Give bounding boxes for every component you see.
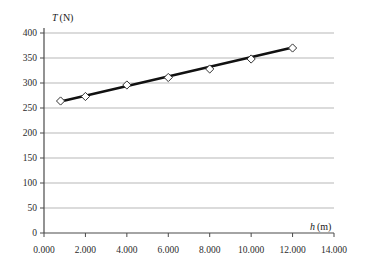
y-tick-label: 350 xyxy=(23,53,38,63)
data-point-marker xyxy=(56,97,64,105)
trend-line-group xyxy=(61,48,293,102)
y-axis-title: T(N) xyxy=(52,12,73,24)
x-axis-title: h(m) xyxy=(310,221,331,233)
y-tick-label: 300 xyxy=(23,78,38,88)
x-tick-label: 10.000 xyxy=(238,245,264,255)
y-tick-label: 0 xyxy=(32,228,37,238)
gridlines-group xyxy=(44,33,334,208)
y-tick-label: 50 xyxy=(28,203,38,213)
x-tick-label: 12.000 xyxy=(280,245,306,255)
x-tick-label: 8.000 xyxy=(199,245,221,255)
y-tick-label: 100 xyxy=(23,178,38,188)
data-point-marker xyxy=(288,44,296,52)
data-point-marker xyxy=(81,92,89,100)
x-tick-label: 14.000 xyxy=(321,245,347,255)
y-tick-label: 250 xyxy=(23,103,38,113)
x-tick-label: 0.000 xyxy=(33,245,55,255)
y-tick-label: 200 xyxy=(23,128,38,138)
y-tick-label: 400 xyxy=(23,28,38,38)
axis-titles-group: T(N)h(m) xyxy=(52,12,331,233)
trend-line xyxy=(61,48,293,102)
tick-labels-group: 0501001502002503003504000.0002.0004.0006… xyxy=(23,28,348,255)
axes-group xyxy=(44,28,334,233)
x-tick-label: 2.000 xyxy=(75,245,97,255)
x-tick-label: 4.000 xyxy=(116,245,138,255)
y-tick-label: 150 xyxy=(23,153,38,163)
scatter-plot: 0501001502002503003504000.0002.0004.0006… xyxy=(0,0,383,275)
x-tick-label: 6.000 xyxy=(158,245,180,255)
chart-figure: 0501001502002503003504000.0002.0004.0006… xyxy=(0,0,383,275)
tick-marks-group xyxy=(40,33,334,237)
